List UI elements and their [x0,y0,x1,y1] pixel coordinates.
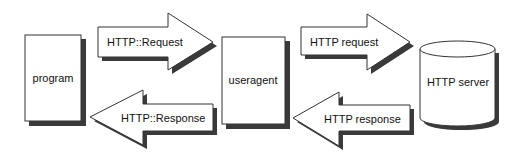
server-node: HTTP server [420,41,499,130]
perl-response-arrow: HTTP::Response [90,90,217,149]
http-request-arrow: HTTP request [301,14,414,74]
perl-request-arrow: HTTP::Request [98,13,217,74]
useragent-label: useragent [229,74,278,86]
program-label: program [33,72,74,84]
server-label: HTTP server [427,76,489,88]
server-node-top [420,41,495,57]
http-request-label: HTTP request [310,36,378,48]
perl-request-label: HTTP::Request [107,36,183,48]
http-response-label: HTTP response [324,113,401,125]
perl-response-label: HTTP::Response [121,112,205,124]
diagram-canvas: program HTTP::Request useragent HTTP::Re… [0,0,525,155]
http-response-arrow: HTTP response [293,92,414,150]
program-node: program [25,35,86,126]
useragent-node: useragent [222,37,290,129]
